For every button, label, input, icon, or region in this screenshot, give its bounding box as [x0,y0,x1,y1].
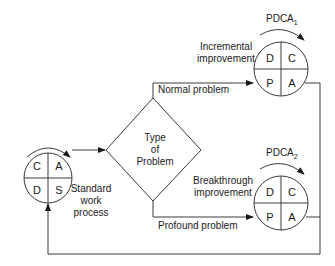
pdca2-quadrant-c: C [288,186,296,198]
pdca1-label-line1: Incremental [200,41,252,52]
standard-label-line3: process [73,207,108,218]
pdca1-quadrant-p: P [266,77,273,89]
standard-label-line2: work [79,195,102,206]
pdca1-quadrant-a: A [288,77,296,89]
pdca2-quadrant-p: P [266,211,273,223]
pdca2-title: PDCA2 [266,147,298,160]
rotation-arrow-icon [260,164,304,174]
decision-label-line1: Type [144,132,166,143]
decision-label-line2: of [151,144,160,155]
pdca1-label-line2: improvement [197,53,255,64]
standard-label-line1: Standard [71,183,112,194]
decision-diamond: Type of Problem [106,98,201,201]
standard-cycle: C A D S Standard work process [24,148,111,218]
pdca-diagram: C A D S Standard work process Type of Pr… [0,0,335,266]
quadrant-s: S [55,184,62,196]
pdca1-quadrant-d: D [266,52,274,64]
profound-problem-label: Profound problem [158,220,238,231]
pdca1-quadrant-c: C [288,52,296,64]
pdca2-quadrant-a: A [288,211,296,223]
normal-problem-label: Normal problem [158,84,229,95]
feedback-loop-pdca1 [305,83,320,254]
pdca2-quadrant-d: D [266,186,274,198]
quadrant-c: C [33,160,41,172]
pdca2-cycle: PDCA2 D C P A Breakthrough improvement [193,147,308,230]
decision-label-line3: Problem [136,156,173,167]
rotation-arrow-icon [260,30,304,40]
pdca2-label-line2: improvement [194,187,252,198]
profound-path-arrow [153,201,253,217]
quadrant-d: D [33,184,41,196]
pdca1-title: PDCA1 [266,13,298,26]
pdca2-label-line1: Breakthrough [193,175,253,186]
quadrant-a: A [55,160,63,172]
